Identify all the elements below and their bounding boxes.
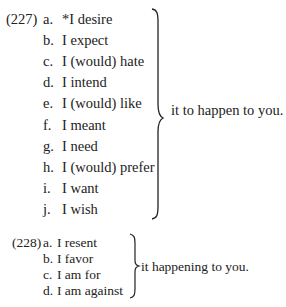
item-letter: h. <box>43 159 54 175</box>
item-letter: g. <box>43 138 54 154</box>
item-text: I am for <box>57 267 100 283</box>
item-text: I want <box>62 180 99 196</box>
item-text: I expect <box>62 32 108 48</box>
item-text: I meant <box>62 117 106 133</box>
item-letter: a. <box>43 235 52 251</box>
item-letter: e. <box>43 95 53 111</box>
item-text: *I desire <box>62 11 112 27</box>
item-letter: c. <box>43 53 53 69</box>
item-text: I intend <box>62 74 107 90</box>
item-letter: b. <box>43 32 54 48</box>
right-brace <box>150 8 166 220</box>
item-text: I (would) prefer <box>62 159 155 175</box>
example-number: (228) <box>12 235 41 251</box>
item-text: I favor <box>57 251 93 267</box>
item-letter: a. <box>43 11 53 27</box>
item-text: I (would) hate <box>62 53 144 69</box>
item-text: I wish <box>62 201 98 217</box>
item-text: I need <box>62 138 98 154</box>
item-letter: b. <box>43 251 53 267</box>
item-letter: d. <box>43 283 53 299</box>
item-text: I am against <box>57 283 123 299</box>
item-text: I (would) like <box>62 95 142 111</box>
item-letter: d. <box>43 74 54 90</box>
complement-text: it happening to you. <box>141 259 249 275</box>
item-letter: f. <box>43 117 51 133</box>
complement-text: it to happen to you. <box>171 102 283 118</box>
right-brace <box>128 233 142 299</box>
item-letter: j. <box>43 201 51 217</box>
example-number: (227) <box>6 11 37 27</box>
item-letter: c. <box>43 267 52 283</box>
item-letter: i. <box>43 180 51 196</box>
item-text: I resent <box>57 235 97 251</box>
